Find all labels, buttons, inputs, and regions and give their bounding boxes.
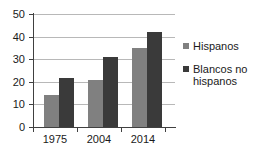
y-tick-30: [29, 59, 33, 60]
x-tick-end: [165, 128, 166, 132]
x-tick-2: [121, 128, 122, 132]
y-axis-label-0: 0: [1, 122, 25, 133]
x-tick-start: [33, 128, 34, 132]
y-tick-40: [29, 37, 33, 38]
x-axis-label-2004: 2004: [77, 133, 121, 145]
y-axis-label-20: 20: [1, 77, 25, 88]
y-tick-50: [29, 14, 33, 15]
x-axis-label-1975: 1975: [33, 133, 77, 145]
plot-area: [33, 14, 175, 127]
y-axis-label-10: 10: [1, 99, 25, 110]
x-axis-label-2014: 2014: [121, 133, 165, 145]
y-tick-10: [29, 104, 33, 105]
bar-blancos-2014: [147, 32, 162, 127]
legend-label-hispanos: Hispanos: [193, 40, 239, 52]
legend-swatch-icon-blancos: [183, 66, 189, 72]
bar-blancos-1975: [59, 78, 74, 127]
y-tick-20: [29, 82, 33, 83]
y-axis-line: [33, 13, 34, 128]
chart-legend: Hispanos Blancos no hispanos: [183, 40, 259, 98]
y-axis-label-40: 40: [1, 32, 25, 43]
bar-hispanos-1975: [44, 95, 59, 127]
legend-item-hispanos: Hispanos: [183, 40, 259, 52]
bar-hispanos-2014: [132, 48, 147, 127]
x-tick-1: [77, 128, 78, 132]
y-axis-label-30: 30: [1, 54, 25, 65]
y-axis-label-50: 50: [1, 9, 25, 20]
legend-swatch-icon-hispanos: [183, 43, 189, 49]
x-axis-line: [33, 127, 176, 128]
bar-chart: 50 40 30 20 10 0 1975 2004 2014 Hispanos…: [0, 0, 259, 150]
gridline-50: [33, 14, 175, 15]
bar-blancos-2004: [103, 57, 118, 127]
legend-label-blancos-no-hispanos: Blancos no hispanos: [193, 63, 247, 87]
legend-item-blancos-no-hispanos: Blancos no hispanos: [183, 63, 259, 87]
bar-hispanos-2004: [88, 80, 103, 128]
